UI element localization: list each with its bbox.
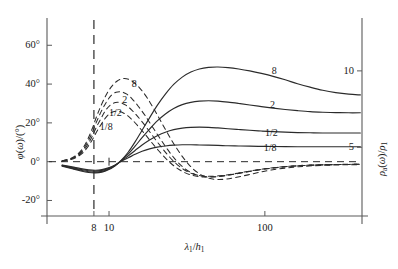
ytick-label-left-1: 0° <box>31 156 40 167</box>
curve-phase-half <box>62 102 360 176</box>
curve-label-phase-eighth: 1/8 <box>100 122 113 132</box>
xtick-label-2: 100 <box>257 223 273 234</box>
ytick-label-left-3: 40° <box>25 79 40 90</box>
left-axis-title: φ(ω)/(°) <box>15 125 26 159</box>
axis-lines <box>41 18 368 224</box>
ytick-label-left-4: 60° <box>25 40 40 51</box>
right-axis-title: ρa(ω)/ρ1 <box>377 142 389 176</box>
curve-label-resistivity-half: 1/2 <box>265 128 278 138</box>
chart-figure: -20° 0° 20° 40° 60° 5 10 8 10 100 φ(ω)/(… <box>0 0 398 269</box>
ytick-label-right-0: 5 <box>349 142 354 153</box>
curve-label-resistivity-2: 2 <box>270 100 275 110</box>
curve-label-resistivity-eighth: 1/8 <box>264 143 277 153</box>
curve-label-phase-half: 1/2 <box>109 108 122 118</box>
curve-label-resistivity-8: 8 <box>272 66 277 76</box>
xtick-label-0: 8 <box>91 223 96 234</box>
curve-label-phase-8: 8 <box>132 79 137 89</box>
curve-label-phase-2: 2 <box>122 95 127 105</box>
curve-resistivity-eighth <box>62 145 360 170</box>
ytick-label-left-0: -20° <box>22 195 40 206</box>
ytick-label-left-2: 20° <box>25 118 40 129</box>
xtick-label-1: 10 <box>104 223 115 234</box>
reference-lines <box>49 20 360 209</box>
chart-plot-area <box>0 0 398 269</box>
ytick-label-right-1: 10 <box>344 66 355 77</box>
curve-phase-2 <box>62 92 360 177</box>
x-axis-title: λ1/h1 <box>185 242 205 254</box>
